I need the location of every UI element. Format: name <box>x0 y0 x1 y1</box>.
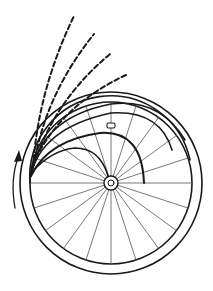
spoke <box>117 135 177 178</box>
spoke <box>117 187 177 230</box>
solid-arc-5 <box>32 148 108 176</box>
spoke <box>115 189 158 249</box>
spoke <box>63 189 106 249</box>
wheel-trajectory-diagram <box>0 0 213 291</box>
hub-outer <box>104 176 118 190</box>
spoke <box>45 135 105 178</box>
rotation-arrow-head-icon <box>14 150 22 162</box>
spoke <box>34 185 104 208</box>
rotation-arrow-shaft <box>13 158 18 208</box>
spoke <box>45 187 105 230</box>
solid-arc-1 <box>30 96 190 183</box>
spoke <box>118 185 188 208</box>
solid-arc-2 <box>30 103 185 180</box>
spoke <box>118 158 188 181</box>
valve-marker <box>107 123 115 128</box>
spoke <box>113 190 136 260</box>
spoke <box>86 190 109 260</box>
solid-trajectory-arcs <box>30 96 190 183</box>
spoke <box>113 106 136 176</box>
spoke <box>115 117 158 177</box>
